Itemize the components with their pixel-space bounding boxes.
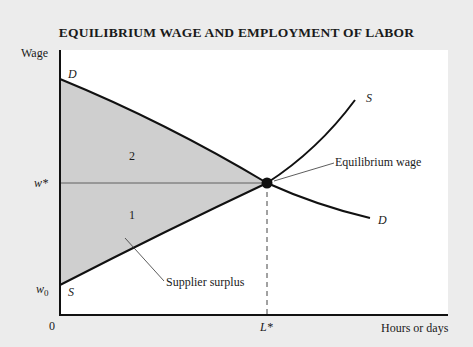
demand-label-end: D bbox=[378, 213, 387, 228]
demand-label-top: D bbox=[68, 67, 77, 82]
w0-base: w bbox=[36, 282, 44, 296]
x-axis-label: Hours or days bbox=[381, 321, 448, 336]
supply-label-end: S bbox=[366, 91, 372, 106]
region-2-label: 2 bbox=[129, 149, 135, 164]
supply-label-bottom: S bbox=[68, 285, 74, 300]
origin-label: 0 bbox=[49, 319, 55, 334]
region-1-label: 1 bbox=[129, 208, 135, 223]
surplus-leader-line bbox=[125, 238, 164, 281]
equilibrium-wage-annotation: Equilibrium wage bbox=[335, 155, 421, 170]
w-star-tick-label: w* bbox=[34, 176, 48, 191]
surplus-region bbox=[60, 79, 267, 285]
equilibrium-point bbox=[262, 178, 273, 189]
l-star-tick-label: L* bbox=[260, 320, 273, 335]
supplier-surplus-annotation: Supplier surplus bbox=[166, 275, 244, 290]
y-axis-label: Wage bbox=[21, 46, 48, 61]
w0-subscript: 0 bbox=[44, 288, 49, 298]
w0-tick-label: w0 bbox=[36, 282, 49, 298]
